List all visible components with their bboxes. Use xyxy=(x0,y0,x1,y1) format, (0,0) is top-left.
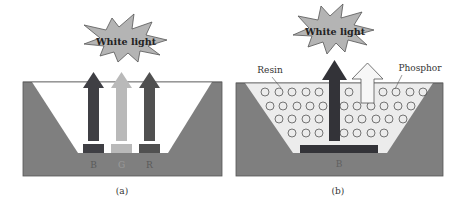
panel-b: B Resin Phosphor White light (b) xyxy=(236,4,443,196)
chip-label-b: B xyxy=(90,160,97,170)
chip-label-b: B xyxy=(336,159,343,169)
caption-a: (a) xyxy=(116,186,128,196)
white-light-label: White light xyxy=(95,36,157,47)
red-chip xyxy=(139,144,160,153)
led-white-light-diagram: B G R White light (a) B Resin xyxy=(0,0,466,204)
phosphor-label: Phosphor xyxy=(398,63,442,73)
caption-b: (b) xyxy=(332,186,345,196)
green-chip xyxy=(111,144,132,153)
blue-chip xyxy=(300,145,378,153)
chip-label-r: R xyxy=(146,160,153,170)
panel-a: B G R White light (a) xyxy=(23,14,222,196)
blue-chip xyxy=(83,144,104,153)
chip-label-g: G xyxy=(118,160,125,170)
resin-label: Resin xyxy=(257,65,283,75)
white-light-label: White light xyxy=(304,26,366,37)
